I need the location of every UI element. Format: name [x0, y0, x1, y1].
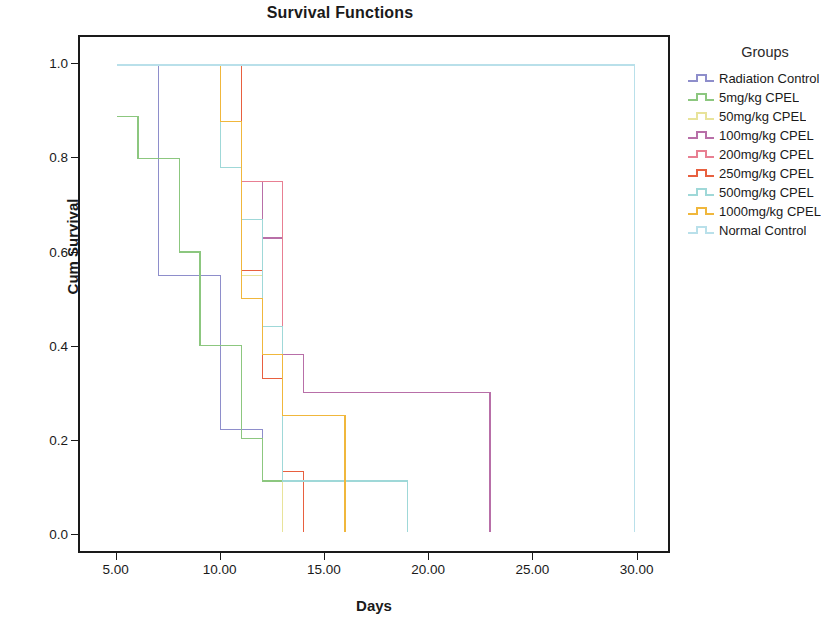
y-tick-mark — [71, 534, 78, 535]
legend-swatch-icon — [688, 72, 714, 85]
legend-item: Normal Control — [688, 221, 837, 239]
x-axis-label: Days — [78, 597, 670, 614]
legend-item: 5mg/kg CPEL — [688, 88, 837, 106]
legend-item: 500mg/kg CPEL — [688, 183, 837, 201]
survival-curve — [117, 65, 345, 532]
y-tick-mark — [71, 63, 78, 64]
y-tick-label: 0.4 — [24, 338, 68, 353]
legend-item-label: 200mg/kg CPEL — [719, 147, 814, 162]
legend-rows: Radiation Control5mg/kg CPEL50mg/kg CPEL… — [688, 69, 837, 239]
legend-swatch-icon — [688, 224, 714, 237]
survival-functions-figure: Survival Functions Cum Survival Days Gro… — [0, 0, 837, 626]
x-tick-label: 20.00 — [393, 562, 463, 577]
survival-curves — [80, 37, 668, 551]
x-tick-mark — [220, 553, 221, 560]
legend-item-label: Radiation Control — [719, 71, 819, 86]
legend-item-label: 500mg/kg CPEL — [719, 185, 814, 200]
legend-swatch-icon — [688, 129, 714, 142]
y-tick-mark — [71, 252, 78, 253]
x-tick-label: 25.00 — [497, 562, 567, 577]
legend-item: 200mg/kg CPEL — [688, 145, 837, 163]
legend: Groups Radiation Control5mg/kg CPEL50mg/… — [688, 44, 837, 240]
y-tick-label: 1.0 — [24, 56, 68, 71]
x-tick-mark — [324, 553, 325, 560]
legend-item-label: 50mg/kg CPEL — [719, 109, 806, 124]
legend-swatch-icon — [688, 148, 714, 161]
legend-item-label: 250mg/kg CPEL — [719, 166, 814, 181]
survival-curve — [117, 65, 490, 532]
legend-item: Radiation Control — [688, 69, 837, 87]
x-tick-mark — [116, 553, 117, 560]
legend-item-label: Normal Control — [719, 223, 806, 238]
legend-item-label: 5mg/kg CPEL — [719, 90, 799, 105]
legend-swatch-icon — [688, 110, 714, 123]
survival-curve — [117, 65, 303, 532]
legend-swatch-icon — [688, 186, 714, 199]
x-tick-label: 30.00 — [602, 562, 672, 577]
x-tick-mark — [532, 553, 533, 560]
legend-item: 1000mg/kg CPEL — [688, 202, 837, 220]
x-tick-mark — [637, 553, 638, 560]
survival-curve — [117, 116, 283, 532]
y-tick-mark — [71, 157, 78, 158]
plot-area — [78, 35, 670, 553]
x-tick-label: 15.00 — [289, 562, 359, 577]
legend-item: 250mg/kg CPEL — [688, 164, 837, 182]
legend-swatch-icon — [688, 91, 714, 104]
legend-item-label: 100mg/kg CPEL — [719, 128, 814, 143]
page-title: Survival Functions — [0, 4, 680, 22]
x-tick-mark — [428, 553, 429, 560]
y-tick-label: 0.8 — [24, 150, 68, 165]
y-tick-label: 0.6 — [24, 244, 68, 259]
legend-swatch-icon — [688, 205, 714, 218]
survival-curve — [117, 65, 303, 532]
y-tick-label: 0.0 — [24, 527, 68, 542]
legend-item-label: 1000mg/kg CPEL — [719, 204, 821, 219]
legend-swatch-icon — [688, 167, 714, 180]
legend-item: 50mg/kg CPEL — [688, 107, 837, 125]
y-tick-label: 0.2 — [24, 432, 68, 447]
x-tick-label: 10.00 — [185, 562, 255, 577]
x-tick-label: 5.00 — [81, 562, 151, 577]
legend-title: Groups — [702, 44, 828, 60]
legend-item: 100mg/kg CPEL — [688, 126, 837, 144]
y-tick-mark — [71, 346, 78, 347]
y-tick-mark — [71, 440, 78, 441]
